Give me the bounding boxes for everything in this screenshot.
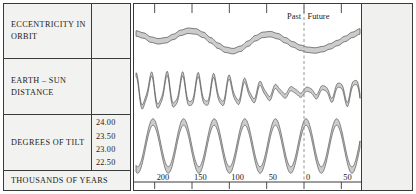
row-label-cell: DEGREES OF TILT	[4, 115, 92, 170]
x-axis-tick-label: 200	[157, 173, 170, 182]
row-label-cell: EARTH – SUN DISTANCE	[4, 59, 92, 114]
row-label-earth-sun-distance: EARTH – SUN DISTANCE	[11, 75, 88, 99]
tilt-axis-value: 22.50	[96, 156, 130, 169]
tilt-axis-value: 23.50	[96, 130, 130, 143]
right-empty-panel	[361, 3, 413, 191]
value-strip-earth-sun-distance	[92, 59, 130, 114]
past-label: Past	[287, 12, 302, 21]
x-axis-tick-label: 100	[231, 173, 244, 182]
tilt-axis-value: 23.00	[96, 143, 130, 156]
chart-bands-group	[136, 28, 360, 173]
row-label-eccentricity: ECCENTRICITY IN ORBIT	[11, 19, 88, 43]
table-row-earth-sun-distance: EARTH – SUN DISTANCE	[4, 59, 130, 115]
label-table: ECCENTRICITY IN ORBIT EARTH – SUN DISTAN…	[3, 3, 131, 191]
x-axis-tick-label: 50	[269, 173, 277, 182]
tilt-axis-value: 24.00	[96, 116, 130, 129]
chart-ticks-group	[134, 4, 361, 189]
x-axis-tick-label: 50	[343, 173, 351, 182]
table-row-eccentricity: ECCENTRICITY IN ORBIT	[4, 4, 130, 59]
future-label: Future	[308, 12, 330, 21]
milankovitch-chart: 20015010050050PastFuture	[134, 4, 361, 191]
x-axis-tick-label: 150	[194, 173, 207, 182]
tilt-axis-value-list: 24.00 23.50 23.00 22.50	[92, 115, 130, 171]
row-label-cell: THOUSANDS OF YEARS	[4, 171, 130, 190]
row-label-degrees-of-tilt: DEGREES OF TILT	[11, 137, 84, 149]
value-strip-eccentricity	[92, 4, 130, 58]
row-label-thousands-of-years: THOUSANDS OF YEARS	[11, 175, 108, 187]
table-row-thousands-of-years: THOUSANDS OF YEARS	[4, 171, 130, 190]
x-axis-tick-label: 0	[306, 173, 310, 182]
milankovitch-figure: ECCENTRICITY IN ORBIT EARTH – SUN DISTAN…	[0, 0, 416, 194]
row-label-cell: ECCENTRICITY IN ORBIT	[4, 4, 92, 58]
chart-panel: 20015010050050PastFuture	[133, 3, 361, 191]
